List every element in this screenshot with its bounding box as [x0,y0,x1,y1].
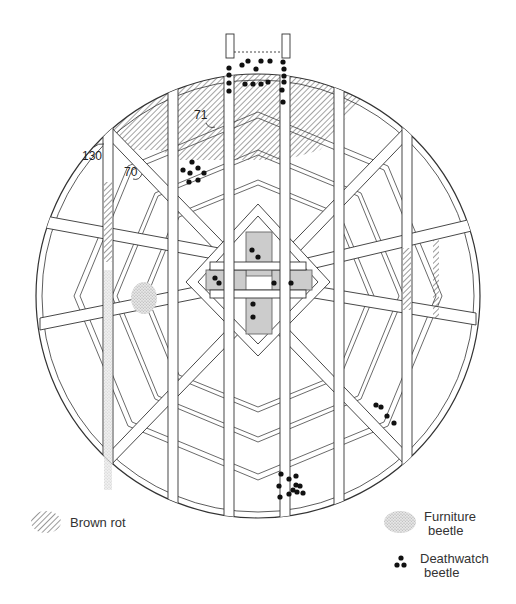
top-rails [226,34,290,58]
legend-furniture-beetle: Furniture beetle [382,510,476,538]
svg-text:130: 130 [82,149,102,163]
furniture-beetle-stipple-icon [382,510,418,534]
svg-text:71: 71 [194,108,208,122]
deathwatch-beetle-dots-icon [390,552,412,572]
legend-deathwatch-beetle: Deathwatch beetle [390,552,489,580]
legend-label-deathwatch-beetle: Deathwatch beetle [420,552,489,580]
legend-label-brown-rot: Brown rot [70,516,126,530]
legend-label-furniture-beetle: Furniture beetle [424,510,476,538]
svg-text:70: 70 [124,165,138,179]
brown-rot-hatch-icon [30,510,62,534]
brown-rot-region [100,52,370,160]
legend-brown-rot: Brown rot [30,510,126,534]
